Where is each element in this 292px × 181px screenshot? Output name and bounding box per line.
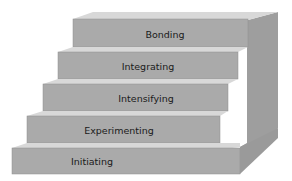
step-label: Bonding (145, 29, 184, 40)
staircase-diagram: Bonding Integrating Intensifying Experim… (0, 0, 292, 181)
step-top-face (58, 47, 248, 52)
step-label: Experimenting (84, 125, 154, 136)
step-label: Integrating (122, 61, 175, 72)
step-bonding: Bonding (73, 12, 278, 47)
step-label: Initiating (71, 156, 113, 167)
step-experimenting: Experimenting (27, 111, 228, 143)
step-integrating: Integrating (58, 47, 248, 79)
step-initiating: Initiating (12, 143, 240, 174)
step-front-face (12, 148, 240, 174)
step-intensifying: Intensifying (43, 79, 238, 111)
step-label: Intensifying (118, 93, 174, 104)
step-top-face (27, 111, 228, 116)
step-top-face (12, 143, 240, 148)
step-top-face (43, 79, 238, 84)
